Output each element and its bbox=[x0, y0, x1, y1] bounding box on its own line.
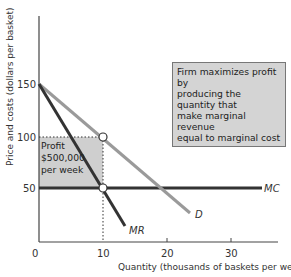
y-tick-label-50: 50 bbox=[23, 183, 36, 194]
x-tick-label-20: 20 bbox=[161, 248, 174, 259]
profit-label-line: Profit bbox=[41, 140, 85, 152]
mr-mc-point bbox=[99, 184, 107, 192]
annotation-box: Firm maximizes profit by producing the q… bbox=[172, 62, 286, 147]
annotation-line: make marginal revenue bbox=[177, 110, 281, 132]
profit-label-line: $500,000 bbox=[41, 152, 85, 164]
y-tick-label-150: 150 bbox=[17, 79, 36, 90]
profit-label: Profit $500,000 per week bbox=[41, 140, 85, 176]
y-axis-label: Price and costs (dollars per basket) bbox=[5, 7, 15, 166]
y-tick-label-100: 100 bbox=[17, 132, 36, 143]
mr-label: MR bbox=[129, 225, 145, 236]
mc-label: MC bbox=[264, 183, 280, 194]
demand-point bbox=[99, 133, 107, 141]
annotation-line: Firm maximizes profit by bbox=[177, 66, 281, 88]
x-tick-label-30: 30 bbox=[225, 248, 238, 259]
annotation-line: equal to marginal cost bbox=[177, 132, 281, 143]
x-axis-label: Quantity (thousands of baskets per week) bbox=[118, 262, 291, 272]
x-tick-label-0: 0 bbox=[32, 248, 38, 259]
profit-label-line: per week bbox=[41, 164, 85, 176]
d-label: D bbox=[195, 209, 203, 220]
annotation-line: producing the quantity that bbox=[177, 88, 281, 110]
x-tick-label-10: 10 bbox=[97, 248, 110, 259]
